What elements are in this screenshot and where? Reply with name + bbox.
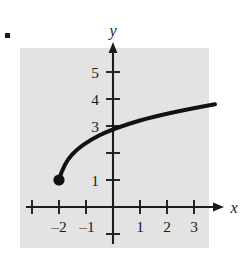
x-tick-label-neg1: –1 bbox=[78, 218, 95, 235]
x-axis-label: x bbox=[229, 199, 237, 216]
y-axis-arrowhead bbox=[109, 42, 118, 53]
y-tick-label-3: 3 bbox=[91, 118, 99, 135]
x-tick-label-pos1: 1 bbox=[136, 218, 144, 235]
x-tick-label-pos3: 3 bbox=[190, 218, 198, 235]
coordinate-plot: 5 4 3 1 –2 –1 1 2 3 y x bbox=[0, 0, 245, 256]
x-tick-label-pos2: 2 bbox=[163, 218, 171, 235]
x-axis-arrowhead bbox=[213, 203, 224, 212]
graph-figure: 5 4 3 1 –2 –1 1 2 3 y x bbox=[0, 0, 245, 256]
plot-background-panel bbox=[20, 48, 209, 248]
y-tick-label-4: 4 bbox=[91, 91, 99, 108]
y-axis-label: y bbox=[107, 22, 117, 40]
x-tick-label-neg2: –2 bbox=[50, 218, 67, 235]
y-tick-label-1: 1 bbox=[91, 172, 99, 189]
curve-endpoint-dot bbox=[53, 174, 64, 185]
y-tick-label-5: 5 bbox=[91, 64, 99, 81]
